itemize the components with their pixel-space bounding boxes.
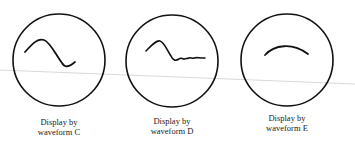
waveform-c-trace [25,40,75,67]
caption-c: Display by waveform C [9,117,109,137]
waveform-d-trace [146,41,205,60]
display-c [13,14,105,106]
caption-c-line2: waveform C [9,127,109,137]
screen-circle-e [241,14,333,106]
caption-c-line1: Display by [9,117,109,127]
caption-d: Display by waveform D [122,116,222,136]
display-e [241,14,333,106]
caption-d-line2: waveform D [122,126,222,136]
screen-circle-d [126,15,218,107]
scan-guide-line [0,70,355,84]
waveform-e-trace [265,46,308,55]
caption-e-line2: waveform E [237,123,337,133]
display-d [126,15,218,107]
caption-e-line1: Display by [237,113,337,123]
caption-d-line1: Display by [122,116,222,126]
caption-e: Display by waveform E [237,113,337,133]
